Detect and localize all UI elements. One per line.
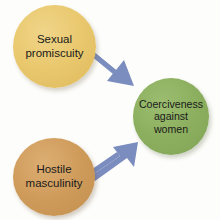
node-hostile-masculinity: Hostile masculinity — [13, 138, 95, 216]
node-sexual-promiscuity: Sexual promiscuity — [13, 5, 96, 88]
flow-diagram: Sexual promiscuity Hostile masculinity C… — [0, 0, 220, 220]
node-hostile-masculinity-label: Hostile masculinity — [22, 163, 87, 190]
node-coerciveness-against-women-label: Coerciveness against women — [135, 98, 207, 136]
node-coerciveness-against-women: Coerciveness against women — [133, 78, 209, 155]
node-sexual-promiscuity-label: Sexual promiscuity — [21, 33, 87, 60]
